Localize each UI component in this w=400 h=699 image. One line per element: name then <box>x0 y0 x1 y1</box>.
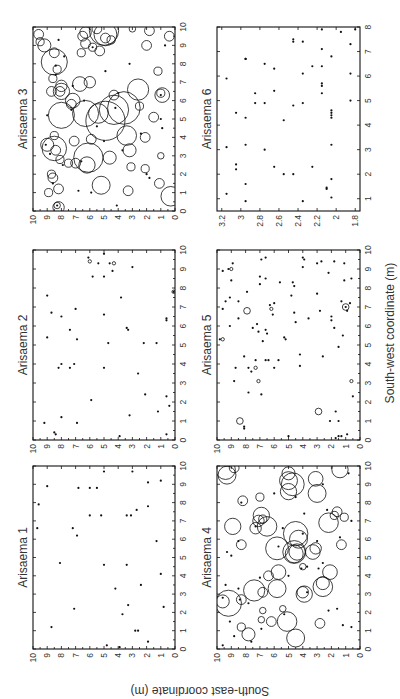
plant-point <box>235 112 237 114</box>
plant-point <box>230 555 232 557</box>
plant-point <box>146 173 148 175</box>
y-tick-label: 7 <box>255 444 265 449</box>
plant-point <box>326 509 328 511</box>
plant-point <box>60 363 62 365</box>
plant-point <box>307 317 309 319</box>
plant-point <box>106 644 108 646</box>
panel-frame <box>33 27 175 211</box>
plant-circle <box>216 460 236 480</box>
plant-point <box>250 371 252 373</box>
plant-point <box>342 334 344 336</box>
x-tick-label: 5 <box>363 98 373 103</box>
plant-point <box>107 342 109 344</box>
plant-circle <box>154 179 164 189</box>
y-tick-label: 2 <box>142 444 152 449</box>
plant-point <box>77 487 79 489</box>
plant-point <box>293 285 295 287</box>
plant-point <box>60 315 62 317</box>
plant-point <box>126 514 128 516</box>
plant-point <box>266 333 268 335</box>
plant-point <box>234 367 236 369</box>
y-tick-label: 10 <box>28 215 38 225</box>
plant-point <box>259 577 261 579</box>
x-tick-label: 6 <box>178 537 188 542</box>
plant-circle <box>287 629 305 647</box>
plant-point <box>250 641 252 643</box>
plant-point <box>136 509 138 511</box>
plant-point <box>336 608 338 610</box>
plant-circle <box>308 484 326 502</box>
panel-3: Arisaema 3012345678910012345678910 <box>16 16 188 224</box>
plant-point <box>316 540 318 542</box>
plant-point <box>50 626 52 628</box>
plant-point <box>245 200 247 202</box>
plant-point <box>144 393 146 395</box>
y-tick-label: 3 <box>312 653 322 658</box>
plant-point <box>222 597 224 599</box>
plant-point <box>229 620 231 622</box>
x-tick-label: 3 <box>363 380 373 385</box>
panel-6: Arisaema 6123456781.822.22.42.62.833.2 <box>200 24 373 226</box>
plant-point <box>333 260 335 262</box>
plant-point <box>243 355 245 357</box>
plant-circle <box>323 565 338 580</box>
plant-point <box>327 272 329 274</box>
panel-4: Arisaema 4012345678910012345678910 <box>200 460 373 663</box>
plant-circle <box>74 143 103 172</box>
plant-circle <box>254 366 257 369</box>
plant-point <box>287 575 289 577</box>
plant-point <box>330 178 332 180</box>
x-tick-label: 4 <box>363 361 373 366</box>
x-tick-label: 9 <box>363 266 373 271</box>
plant-point <box>330 319 332 321</box>
plant-point <box>245 117 247 119</box>
plant-point <box>109 262 111 264</box>
plant-point <box>292 41 294 43</box>
plant-point <box>346 433 348 435</box>
x-tick-label: 1 <box>178 628 188 633</box>
plant-point <box>96 125 98 127</box>
plant-point <box>46 336 48 338</box>
plant-point <box>283 336 285 338</box>
x-tick-label: 5 <box>363 555 373 560</box>
x-tick-label: 8 <box>178 61 188 66</box>
y-axis-title: South-east coordinate (m) <box>131 684 270 698</box>
plant-point <box>137 372 139 374</box>
plant-point <box>55 74 57 76</box>
plant-circle <box>164 31 174 41</box>
plant-circle <box>277 612 297 632</box>
plant-circle <box>257 379 260 382</box>
plant-point <box>60 416 62 418</box>
plant-circle <box>101 33 111 43</box>
plant-point <box>131 470 133 472</box>
y-tick-label: 0 <box>355 653 365 658</box>
plant-circle <box>319 513 339 533</box>
plant-circle <box>225 518 241 534</box>
plant-point <box>120 296 122 298</box>
x-tick-label: 7 <box>363 304 373 309</box>
plant-point <box>319 310 321 312</box>
panel-frame <box>217 27 360 211</box>
panel-2: Arisaema 2012345678910012345678910 <box>16 245 188 453</box>
y-tick-label: 3.2 <box>217 215 227 227</box>
data-layer <box>215 460 352 647</box>
plant-point <box>245 144 247 146</box>
plant-circle <box>50 131 58 139</box>
plant-circle <box>313 577 333 597</box>
plant-point <box>329 420 331 422</box>
plant-point <box>247 367 249 369</box>
x-tick-label: 6 <box>363 73 373 78</box>
plant-point <box>92 276 94 278</box>
plant-circle <box>54 184 64 194</box>
plant-point <box>337 420 339 422</box>
panel-frame <box>33 250 175 440</box>
plant-point <box>311 65 313 67</box>
plant-circle <box>107 36 115 44</box>
plant-point <box>225 146 227 148</box>
plant-point <box>130 514 132 516</box>
plant-point <box>232 262 234 264</box>
plant-point <box>80 160 82 162</box>
x-tick-label: 2 <box>178 399 188 404</box>
y-tick-label: 2 <box>142 215 152 220</box>
x-tick-label: 0 <box>363 437 373 442</box>
